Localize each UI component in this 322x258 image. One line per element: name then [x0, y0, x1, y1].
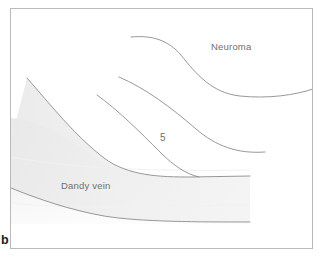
label-neuroma: Neuroma [211, 42, 251, 52]
figure-panel: Neuroma Dandy vein 5 b [0, 0, 322, 258]
anatomical-line-diagram [0, 0, 322, 258]
label-dandy-vein: Dandy vein [61, 181, 111, 191]
label-structure-five: 5 [160, 133, 166, 143]
panel-letter-label: b [1, 234, 9, 247]
